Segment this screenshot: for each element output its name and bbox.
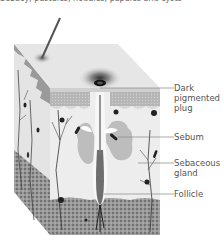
label-dark-pigmented-plug: Dark pigmented plug [174, 83, 220, 113]
label-follicle: Follicle [174, 189, 203, 199]
label-sebum: Sebum [174, 132, 204, 142]
front-face [50, 88, 160, 235]
skin-diagram [0, 0, 224, 245]
label-sebaceous-gland: Sebaceous gland [174, 158, 220, 178]
